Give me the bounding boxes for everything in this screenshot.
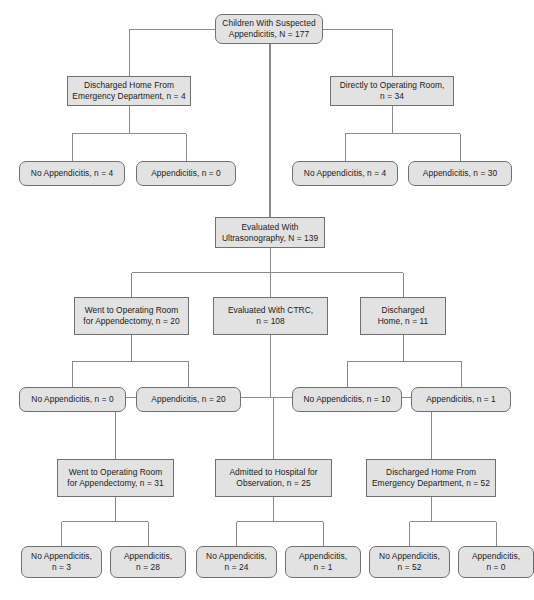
flow-node-no-app-2: No Appendicitis, n = 4	[292, 161, 398, 186]
flow-node-no-app-1: No Appendicitis, n = 4	[19, 161, 125, 186]
flow-node-evaluated-ctrc: Evaluated With CTRC, n = 108	[213, 297, 328, 335]
flow-node-app-5: Appendicitis, n = 28	[110, 546, 186, 578]
flowchart-canvas: Children With Suspected Appendicitis, N …	[0, 0, 534, 600]
flow-node-app-3: Appendicitis, n = 20	[136, 387, 241, 412]
flow-node-no-app-7: No Appendicitis, n = 52	[369, 546, 450, 578]
flow-node-or-appendectomy-31: Went to Operating Room for Appendectomy,…	[57, 459, 174, 497]
flow-node-root: Children With Suspected Appendicitis, N …	[215, 14, 323, 44]
flow-node-discharged-home-11: Discharged Home, n = 11	[360, 297, 446, 335]
flow-node-app-6: Appendicitis, n = 1	[285, 546, 361, 578]
flow-node-or-appendectomy-20: Went to Operating Room for Appendectomy,…	[74, 297, 189, 335]
flow-node-discharged-ed-1: Discharged Home From Emergency Departmen…	[67, 76, 191, 106]
flow-node-discharged-ed-52: Discharged Home From Emergency Departmen…	[366, 459, 496, 497]
flow-node-app-4: Appendicitis, n = 1	[411, 387, 511, 412]
flow-node-admitted-observation: Admitted to Hospital for Observation, n …	[215, 459, 332, 497]
flow-node-app-1: Appendicitis, n = 0	[136, 161, 236, 186]
flow-node-evaluated-us: Evaluated With Ultrasonography, N = 139	[215, 217, 325, 248]
flow-node-app-7: Appendicitis, n = 0	[458, 546, 534, 578]
flow-node-no-app-4: No Appendicitis, n = 10	[292, 387, 402, 412]
flow-node-app-2: Appendicitis, n = 30	[408, 161, 512, 186]
flow-node-no-app-6: No Appendicitis, n = 24	[196, 546, 277, 578]
flow-node-directly-or: Directly to Operating Room, n = 34	[330, 76, 454, 106]
flow-node-no-app-3: No Appendicitis, n = 0	[19, 387, 126, 412]
flow-node-no-app-5: No Appendicitis, n = 3	[21, 546, 102, 578]
